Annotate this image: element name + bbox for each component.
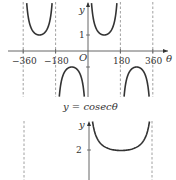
- x-tick-label-180: 180: [113, 56, 130, 66]
- cosec-branch-2: [59, 67, 84, 97]
- y-axis-label-2: y: [78, 119, 85, 130]
- cosec-branch-4: [124, 67, 149, 97]
- origin-label: O: [79, 52, 87, 63]
- y-axis-label: y: [78, 4, 85, 15]
- x-tick-label-neg360: −360: [12, 56, 37, 66]
- x-tick-label-360: 360: [145, 56, 162, 66]
- cosec-branch-1: [27, 3, 52, 35]
- cosec-branch-3: [92, 3, 117, 35]
- x-axis-label: θ: [166, 53, 172, 64]
- y-axis-arrow-icon: [86, 2, 90, 7]
- x-tick-label-neg180: −180: [44, 56, 69, 66]
- cosec-figure: y θ O −360 −180 180 360 1 y = cosecθ y 2: [0, 0, 176, 180]
- y-tick-label-2: 2: [76, 145, 82, 155]
- y-tick-label-1: 1: [79, 30, 85, 40]
- u-curve: [93, 122, 150, 151]
- cosec-chart: [8, 2, 168, 97]
- y-axis-2-arrow-icon: [87, 121, 91, 126]
- second-chart: [24, 121, 152, 180]
- chart-caption: y = cosecθ: [62, 101, 118, 112]
